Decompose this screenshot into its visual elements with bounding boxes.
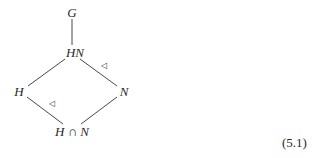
normal-subgroup-icon: ◁ <box>101 62 107 70</box>
equation-number: (5.1) <box>282 135 307 151</box>
node-h-intersect-n: H ∩ N <box>55 125 89 138</box>
node-n: N <box>120 85 129 98</box>
lattice-edges <box>0 0 323 158</box>
normal-subgroup-icon: ◁ <box>49 100 55 108</box>
node-g: G <box>67 6 76 19</box>
node-hn: HN <box>66 46 84 59</box>
node-h: H <box>14 85 23 98</box>
